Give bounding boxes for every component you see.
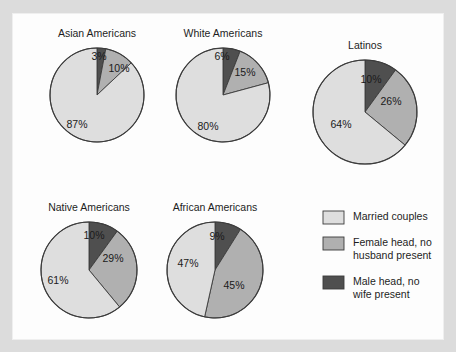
slice-label-4-1: 45%: [223, 279, 244, 291]
pie-group-3: Native Americans61%29%10%: [41, 201, 137, 318]
pie-title: Native Americans: [48, 201, 130, 213]
slice-label-3-2: 10%: [83, 229, 104, 241]
legend-swatch-0: [323, 211, 344, 224]
slice-label-1-0: 80%: [197, 120, 218, 132]
slice-label-0-1: 10%: [108, 62, 129, 74]
pie-title: Asian Americans: [58, 27, 136, 39]
slice-label-4-2: 9%: [209, 230, 224, 242]
slice-label-0-0: 87%: [66, 118, 87, 130]
legend-item-0[interactable]: Married couples: [323, 210, 428, 224]
pie-group-2: Latinos64%26%10%: [313, 39, 417, 164]
legend-label-0-0: Married couples: [353, 210, 428, 222]
pie-chart-figure: Asian Americans87%10%3%White Americans80…: [12, 13, 444, 340]
slice-label-3-1: 29%: [102, 252, 123, 264]
legend-swatch-1: [323, 237, 344, 250]
slice-label-0-2: 3%: [91, 50, 106, 62]
pie-title: White Americans: [184, 27, 263, 39]
legend-label-2-0: Male head, no: [353, 275, 420, 287]
slice-label-2-1: 26%: [380, 95, 401, 107]
pie-slice-4-0: [167, 222, 215, 317]
pie-title: African Americans: [173, 201, 258, 213]
figure-panel: Asian Americans87%10%3%White Americans80…: [12, 13, 444, 340]
slice-label-2-0: 64%: [330, 118, 351, 130]
pie-group-0: Asian Americans87%10%3%: [50, 27, 144, 142]
slice-label-4-0: 47%: [177, 257, 198, 269]
slice-label-1-2: 6%: [214, 50, 229, 62]
slice-label-1-1: 15%: [234, 66, 255, 78]
legend-label-1-0: Female head, no: [353, 236, 432, 248]
legend-label-1-1: husband present: [353, 249, 431, 261]
legend-item-1[interactable]: Female head, nohusband present: [323, 236, 432, 261]
legend-label-2-1: wife present: [352, 288, 410, 300]
legend-swatch-2: [323, 276, 344, 289]
pie-title: Latinos: [348, 39, 382, 51]
legend: Married couplesFemale head, nohusband pr…: [323, 210, 432, 300]
pie-group-4: African Americans47%45%9%: [167, 201, 263, 318]
legend-item-2[interactable]: Male head, nowife present: [323, 275, 420, 300]
pie-group-1: White Americans80%15%6%: [176, 27, 270, 142]
slice-label-3-0: 61%: [47, 274, 68, 286]
slice-label-2-2: 10%: [360, 73, 381, 85]
